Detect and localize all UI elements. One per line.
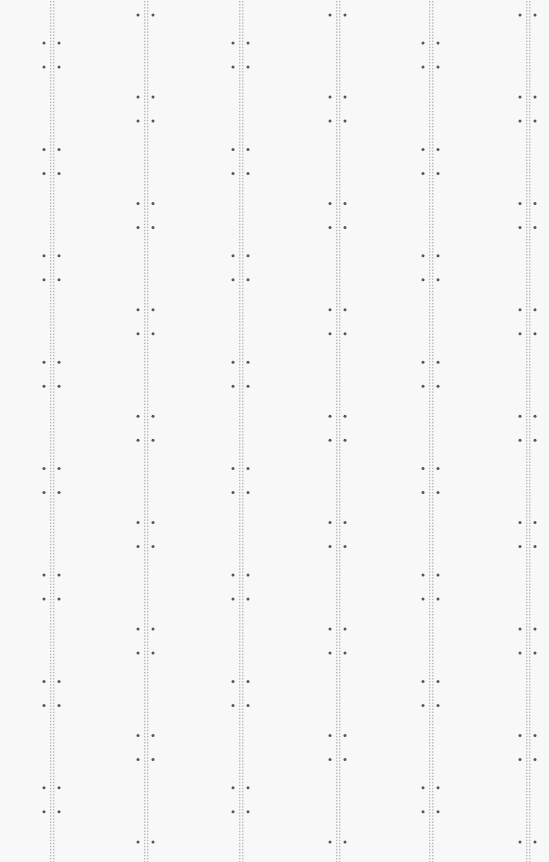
track-dot: [239, 108, 240, 109]
track-dot: [239, 242, 240, 243]
track-dot: [147, 352, 148, 353]
track-dot: [339, 578, 340, 579]
track-dot: [336, 757, 337, 758]
track-dot: [529, 507, 530, 508]
track-dot: [50, 529, 51, 530]
track-dot: [50, 550, 51, 551]
track-dot: [526, 846, 527, 847]
marker-dot: [519, 628, 522, 631]
track-dot: [144, 184, 145, 185]
track-dot: [336, 157, 337, 158]
track-dot: [432, 513, 433, 514]
track-dot: [336, 568, 337, 569]
track-dot: [242, 727, 243, 728]
track-dot: [147, 416, 148, 417]
track-dot: [239, 16, 240, 17]
track-dot: [53, 236, 54, 237]
track-dot: [432, 208, 433, 209]
track-dot: [432, 160, 433, 161]
track-dot: [144, 89, 145, 90]
track-dot: [53, 614, 54, 615]
track-dot: [529, 449, 530, 450]
marker-dot: [43, 42, 46, 45]
track-dot: [339, 739, 340, 740]
track-dot: [242, 212, 243, 213]
marker-dot: [137, 652, 140, 655]
track-dot: [144, 602, 145, 603]
track-dot: [429, 565, 430, 566]
track-dot: [336, 385, 337, 386]
track-dot: [336, 638, 337, 639]
track-dot: [526, 638, 527, 639]
track-dot: [529, 53, 530, 54]
track-dot: [339, 135, 340, 136]
track-dot: [147, 157, 148, 158]
track-dot: [239, 379, 240, 380]
track-dot: [526, 721, 527, 722]
track-dot: [147, 596, 148, 597]
track-dot: [242, 218, 243, 219]
track-dot: [529, 532, 530, 533]
track-dot: [53, 144, 54, 145]
track-dot: [339, 388, 340, 389]
track-dot: [526, 202, 527, 203]
track-dot: [529, 71, 530, 72]
track-dot: [147, 666, 148, 667]
track-dot: [529, 425, 530, 426]
track-dot: [529, 395, 530, 396]
track-dot: [147, 263, 148, 264]
marker-dot: [152, 439, 155, 442]
track-dot: [429, 532, 430, 533]
track-dot: [53, 382, 54, 383]
track-dot: [147, 260, 148, 261]
track-dot: [239, 785, 240, 786]
track-dot: [526, 181, 527, 182]
track-dot: [432, 367, 433, 368]
track-dot: [242, 666, 243, 667]
track-dot: [147, 535, 148, 536]
track-dot: [336, 367, 337, 368]
track-dot: [529, 212, 530, 213]
track-dot: [336, 202, 337, 203]
track-dot: [432, 495, 433, 496]
track-dot: [429, 709, 430, 710]
track-dot: [50, 205, 51, 206]
marker-dot: [519, 439, 522, 442]
track-dot: [432, 190, 433, 191]
track-dot: [336, 690, 337, 691]
track-dot: [50, 175, 51, 176]
track-dot: [526, 510, 527, 511]
track-dot: [239, 208, 240, 209]
track-dot: [144, 138, 145, 139]
track-dot: [336, 465, 337, 466]
track-dot: [339, 160, 340, 161]
marker-dot: [43, 704, 46, 707]
track-dot: [339, 852, 340, 853]
track-dot: [53, 617, 54, 618]
track-dot: [432, 391, 433, 392]
track-dot: [53, 111, 54, 112]
track-dot: [432, 764, 433, 765]
track-dot: [336, 849, 337, 850]
track-dot: [529, 483, 530, 484]
marker-dot: [43, 148, 46, 151]
track-dot: [526, 480, 527, 481]
track-dot: [239, 129, 240, 130]
track-dot: [432, 251, 433, 252]
track-dot: [336, 556, 337, 557]
track-dot: [432, 501, 433, 502]
track-dot: [147, 327, 148, 328]
track-dot: [432, 172, 433, 173]
track-dot: [50, 279, 51, 280]
track-dot: [526, 773, 527, 774]
track-dot: [429, 126, 430, 127]
track-dot: [526, 501, 527, 502]
track-dot: [526, 748, 527, 749]
track-dot: [526, 782, 527, 783]
track-dot: [53, 523, 54, 524]
track-dot: [432, 135, 433, 136]
track-dot: [526, 279, 527, 280]
track-dot: [239, 724, 240, 725]
track-dot: [144, 334, 145, 335]
track-dot: [336, 358, 337, 359]
